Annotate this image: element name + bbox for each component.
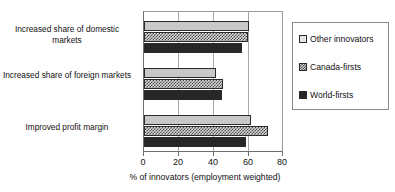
- bar-other-innovators-foreign: [144, 68, 216, 78]
- bar-world-firsts-profit: [144, 137, 246, 147]
- chart-legend: Other innovators Canada-firsts World-fir…: [292, 22, 389, 110]
- legend-label: Canada-firsts: [310, 62, 361, 72]
- bar-world-firsts-foreign: [144, 90, 222, 100]
- x-tick: [248, 152, 249, 156]
- x-tick: [213, 152, 214, 156]
- bar-world-firsts-domestic: [144, 43, 242, 53]
- x-tick-label: 0: [130, 157, 156, 167]
- legend-swatch-icon: [299, 35, 307, 43]
- bar-other-innovators-domestic: [144, 21, 249, 31]
- bar-canada-firsts-domestic: [144, 32, 248, 42]
- legend-label: Other innovators: [310, 34, 374, 44]
- x-tick: [282, 152, 283, 156]
- x-axis-title: % of innovators (employment weighted): [60, 172, 350, 182]
- legend-item-other-innovators: Other innovators: [299, 33, 374, 45]
- bar-chart-figure: Increased share of domestic markets Incr…: [0, 0, 395, 192]
- x-tick-label: 40: [200, 157, 226, 167]
- bar-canada-firsts-profit: [144, 126, 268, 136]
- x-tick: [178, 152, 179, 156]
- category-axis-labels: Increased share of domestic markets Incr…: [0, 10, 138, 152]
- bar-other-innovators-profit: [144, 115, 251, 125]
- x-tick-label: 20: [165, 157, 191, 167]
- category-label: Improved profit margin: [0, 122, 134, 133]
- category-label: Increased share of domestic markets: [0, 24, 134, 45]
- legend-swatch-icon: [299, 63, 307, 71]
- legend-swatch-icon: [299, 91, 307, 99]
- x-tick: [143, 152, 144, 156]
- category-label: Increased share of foreign markets: [0, 70, 134, 81]
- legend-label: World-firsts: [310, 90, 353, 100]
- bar-canada-firsts-foreign: [144, 79, 223, 89]
- x-tick-label: 80: [269, 157, 295, 167]
- x-tick-label: 60: [235, 157, 261, 167]
- legend-item-canada-firsts: Canada-firsts: [299, 61, 361, 73]
- plot-area: [143, 11, 283, 152]
- legend-item-world-firsts: World-firsts: [299, 89, 353, 101]
